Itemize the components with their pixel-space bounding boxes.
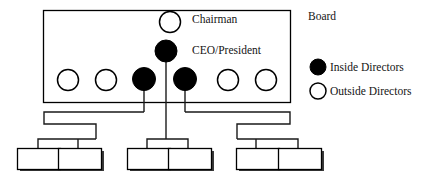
unit-box-left-1 <box>18 149 61 170</box>
org-chart-diagram: Chairman CEO/President Board Inside Dire… <box>0 0 437 171</box>
chairman-node-icon <box>160 12 181 33</box>
connector-bracket-left <box>38 139 96 148</box>
board-member-4-inside-icon <box>174 68 197 91</box>
unit-box-center-1 <box>128 149 171 170</box>
subordinate-boxes <box>18 149 325 172</box>
board-title-label: Board <box>308 11 336 23</box>
legend-inside-label: Inside Directors <box>330 62 404 74</box>
unit-box-center-2 <box>169 149 212 170</box>
board-member-3-inside-icon <box>133 68 156 91</box>
connector-bracket-center <box>147 139 188 148</box>
connector-right-rail <box>185 112 290 139</box>
legend-outside-marker-icon <box>310 83 326 99</box>
legend-outside-label: Outside Directors <box>330 86 411 98</box>
board-member-2-outside-icon <box>96 70 117 91</box>
connector-left-rail <box>44 112 144 139</box>
legend-inside-marker-icon <box>310 59 326 75</box>
unit-box-left-2 <box>59 149 102 170</box>
board-member-1-outside-icon <box>58 70 79 91</box>
unit-box-right-2 <box>279 149 322 170</box>
unit-box-right-1 <box>237 149 280 170</box>
board-member-6-outside-icon <box>256 70 277 91</box>
board-member-5-outside-icon <box>218 70 239 91</box>
ceo-node-icon <box>155 40 177 62</box>
connector-bracket-right <box>237 139 298 148</box>
chairman-label: Chairman <box>192 14 237 26</box>
ceo-label: CEO/President <box>192 45 261 57</box>
